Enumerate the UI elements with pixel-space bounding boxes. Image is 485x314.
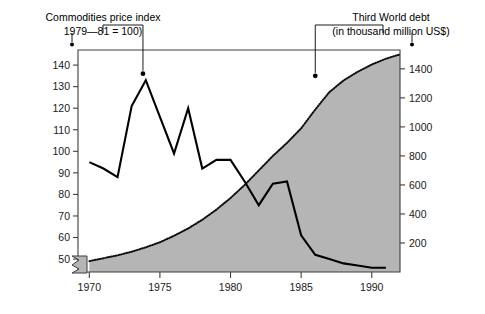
chart-figure: 5060708090100110120130140200400600800100… (0, 0, 485, 314)
x-axis-tick-label: 1970 (78, 281, 102, 293)
y-axis-tick-label: 90 (58, 167, 70, 179)
y2-axis-tick-label: 1000 (409, 121, 433, 133)
x-axis-tick-label: 1990 (360, 281, 384, 293)
y-axis-tick-label: 60 (58, 231, 70, 243)
commodities-leader-dot (141, 71, 146, 76)
debt-area-fill (89, 54, 400, 272)
y2-axis-tick-label: 800 (409, 150, 427, 162)
left-caption-line1: Commodities price index (8, 10, 198, 24)
y2-axis-tick-label: 1200 (409, 92, 433, 104)
y2-axis-tick-label: 400 (409, 208, 427, 220)
y2-axis-tick-label: 1400 (409, 63, 433, 75)
chart-svg: 5060708090100110120130140200400600800100… (0, 0, 485, 314)
y-axis-tick-label: 120 (52, 102, 70, 114)
y-axis-tick-label: 50 (58, 253, 70, 265)
left-caption-line2: 1979—81 = 100) (8, 24, 198, 38)
x-axis-tick-label: 1985 (289, 281, 313, 293)
debt-leader-dot (313, 73, 318, 78)
y-axis-tick-label: 70 (58, 210, 70, 222)
y-axis-tick-label: 110 (53, 124, 70, 136)
y-axis-tick-label: 100 (52, 145, 70, 157)
x-axis-tick-label: 1975 (148, 281, 172, 293)
right-caption-line2: (in thousand million US$) (300, 24, 482, 38)
right-caption: Third World debt (in thousand million US… (300, 10, 482, 38)
right-caption-pointer-dot (410, 43, 414, 47)
x-axis-tick-label: 1980 (219, 281, 243, 293)
y2-axis-tick-label: 200 (409, 237, 427, 249)
right-caption-line1: Third World debt (300, 10, 482, 24)
y-axis-tick-label: 80 (58, 188, 70, 200)
y2-axis-tick-label: 600 (409, 179, 427, 191)
left-caption-pointer-dot (70, 43, 74, 47)
y-axis-tick-label: 140 (52, 59, 70, 71)
y-axis-tick-label: 130 (52, 80, 70, 92)
left-caption: Commodities price index 1979—81 = 100) (8, 10, 198, 38)
